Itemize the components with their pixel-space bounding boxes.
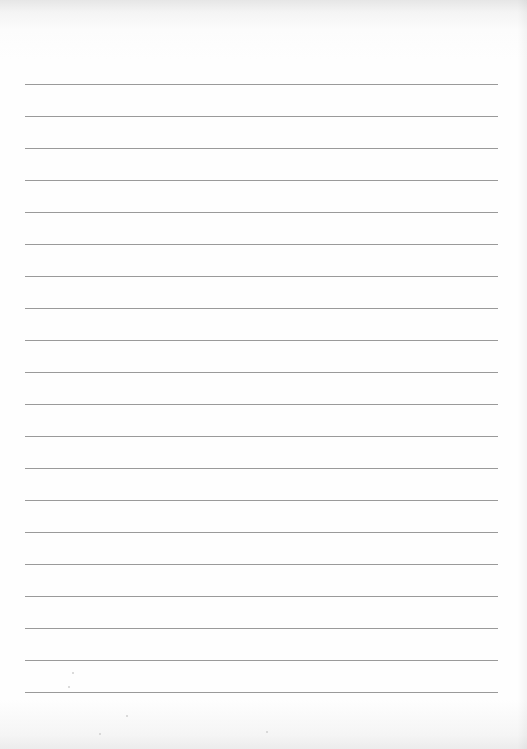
scan-speck <box>68 686 70 688</box>
ruled-line <box>25 500 498 501</box>
ruled-line <box>25 116 498 117</box>
ruled-line <box>25 340 498 341</box>
lined-paper-page <box>0 0 527 749</box>
ruled-line <box>25 404 498 405</box>
ruled-line <box>25 628 498 629</box>
ruled-line <box>25 84 498 85</box>
ruled-line <box>25 308 498 309</box>
scan-speck <box>99 733 101 735</box>
ruled-line <box>25 180 498 181</box>
ruled-line <box>25 372 498 373</box>
ruled-line <box>25 564 498 565</box>
ruled-line <box>25 532 498 533</box>
scan-speck <box>126 715 128 717</box>
ruled-line <box>25 148 498 149</box>
scan-speck <box>72 672 74 674</box>
ruled-line <box>25 660 498 661</box>
ruled-line <box>25 596 498 597</box>
ruled-line <box>25 468 498 469</box>
page-edge-shadow <box>517 0 527 749</box>
ruled-line <box>25 436 498 437</box>
ruled-line <box>25 244 498 245</box>
ruled-line <box>25 212 498 213</box>
ruled-line <box>25 692 498 693</box>
ruled-line <box>25 276 498 277</box>
scan-speck <box>266 731 268 733</box>
